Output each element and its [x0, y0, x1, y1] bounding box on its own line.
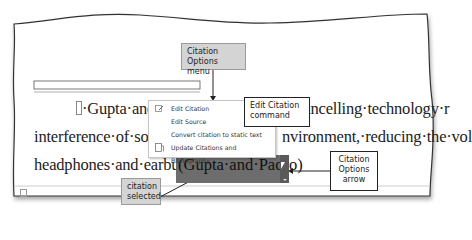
callout-edit-citation-command: Edit Citation command [244, 97, 310, 127]
citation-options-arrow-button[interactable] [280, 155, 289, 183]
document-line-1-end: -cancelling·technology·r [291, 99, 449, 119]
page-view-icon [20, 189, 27, 197]
document-line-2-end: nvironment,·reducing·the·vol [282, 127, 472, 147]
update-citations-icon [155, 143, 164, 152]
menu-item-convert-citation[interactable]: Convert citation to static text [149, 128, 275, 141]
callout-citation-options-arrow: Citation Options arrow [330, 151, 378, 191]
callout-citation-selected: citation selected [121, 178, 161, 205]
chevron-down-icon [283, 179, 287, 181]
edit-citation-icon [155, 104, 164, 113]
callout-citation-options-menu: Citation Options menu [181, 43, 246, 70]
menu-item-update-citations[interactable]: Update Citations and Bibliography [149, 141, 275, 154]
mouse-pointer-icon [281, 162, 288, 169]
